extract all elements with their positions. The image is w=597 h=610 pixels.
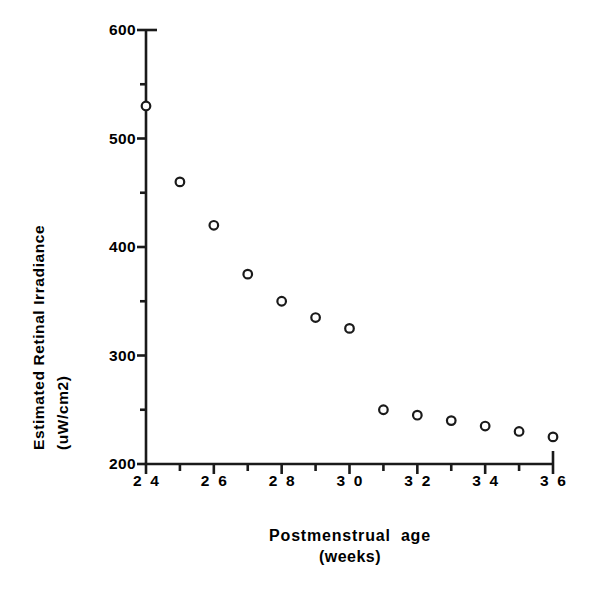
data-point [345, 324, 354, 333]
data-point-markers [142, 102, 558, 442]
data-point [549, 433, 558, 442]
data-point [176, 178, 185, 187]
data-point [515, 427, 524, 436]
data-point [447, 416, 456, 425]
x-axis-title-main: Postmenstrual age [146, 527, 554, 545]
x-axis-title: Postmenstrual age (weeks) [146, 527, 554, 566]
data-point [142, 102, 151, 111]
axis-ticks [137, 30, 553, 474]
x-axis-title-units: (weeks) [146, 548, 554, 566]
chart-figure: Estimated Retinal Irradiance (uW/cm2) 20… [0, 0, 597, 610]
data-point [413, 411, 422, 420]
plot-area [0, 0, 597, 610]
axis-lines [145, 30, 553, 464]
data-point [243, 270, 252, 279]
data-point [210, 221, 219, 230]
data-point [481, 422, 490, 431]
data-point [311, 313, 320, 322]
data-point [277, 297, 286, 306]
data-point [379, 405, 388, 414]
